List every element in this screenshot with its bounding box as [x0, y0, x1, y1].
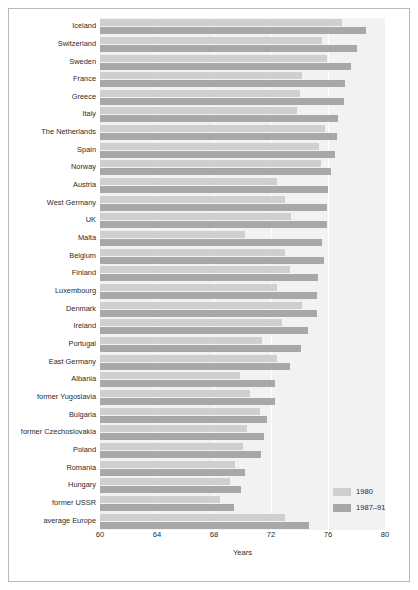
bar-row: Italy	[100, 107, 385, 125]
bar-1987-91	[100, 380, 275, 387]
bar-1980	[100, 37, 322, 44]
category-label: Bulgaria	[69, 407, 96, 423]
plot-area: IcelandSwitzerlandSwedenFranceGreeceItal…	[100, 18, 385, 530]
category-label: Belgium	[69, 248, 96, 264]
bar-row: Spain	[100, 143, 385, 161]
bar-rows: IcelandSwitzerlandSwedenFranceGreeceItal…	[100, 18, 385, 530]
category-label: Austria	[73, 177, 96, 193]
legend-label-1980: 1980	[356, 487, 373, 496]
bar-1980	[100, 372, 240, 379]
category-label: Finland	[72, 265, 96, 281]
bar-1980	[100, 55, 327, 62]
bar-1987-91	[100, 469, 245, 476]
x-tick-72: 72	[267, 530, 275, 539]
category-label: former Czechoslovakia	[21, 424, 96, 440]
bar-1980	[100, 143, 319, 150]
bar-row: Albania	[100, 372, 385, 390]
bar-1980	[100, 355, 277, 362]
bar-1987-91	[100, 345, 301, 352]
bar-row: Ireland	[100, 319, 385, 337]
category-label: Portugal	[68, 336, 96, 352]
legend-label-1987-91: 1987–91	[356, 503, 386, 512]
bar-1980	[100, 461, 235, 468]
bar-1987-91	[100, 363, 290, 370]
bar-row: Austria	[100, 178, 385, 196]
category-label: Switzerland	[58, 36, 96, 52]
bar-1980	[100, 231, 245, 238]
bar-row: Finland	[100, 266, 385, 284]
bar-1987-91	[100, 204, 327, 211]
category-label: France	[73, 71, 96, 87]
bar-row: Malta	[100, 231, 385, 249]
bar-1987-91	[100, 168, 331, 175]
bar-1987-91	[100, 239, 322, 246]
bar-row: Denmark	[100, 302, 385, 320]
bar-1980	[100, 196, 285, 203]
bar-1987-91	[100, 486, 241, 493]
bar-1987-91	[100, 186, 328, 193]
category-label: Romania	[66, 460, 96, 476]
category-label: Poland	[73, 442, 96, 458]
bar-row: Greece	[100, 90, 385, 108]
legend-swatch-1987-91	[333, 504, 351, 512]
legend-swatch-1980	[333, 488, 351, 496]
bar-row: Romania	[100, 461, 385, 479]
bar-row: The Netherlands	[100, 125, 385, 143]
bar-row: UK	[100, 213, 385, 231]
bar-1980	[100, 390, 250, 397]
bar-1987-91	[100, 151, 335, 158]
x-axis-label: Years	[100, 548, 385, 557]
bar-row: Switzerland	[100, 37, 385, 55]
bar-1987-91	[100, 310, 317, 317]
bar-1980	[100, 213, 291, 220]
category-label: Luxembourg	[55, 283, 96, 299]
figure: IcelandSwitzerlandSwedenFranceGreeceItal…	[0, 0, 418, 590]
bar-1987-91	[100, 27, 366, 34]
category-label: Hungary	[68, 477, 96, 493]
bar-1987-91	[100, 98, 344, 105]
bar-1980	[100, 178, 277, 185]
bar-1980	[100, 408, 260, 415]
bar-1987-91	[100, 327, 308, 334]
bar-row: West Germany	[100, 196, 385, 214]
category-label: average Europe	[43, 513, 96, 529]
bar-1987-91	[100, 504, 234, 511]
x-axis-ticks: 606468727680	[0, 530, 418, 546]
bar-row: Iceland	[100, 19, 385, 37]
bar-row: East Germany	[100, 355, 385, 373]
bar-1980	[100, 249, 285, 256]
x-tick-80: 80	[381, 530, 389, 539]
bar-1987-91	[100, 451, 261, 458]
category-label: Albania	[71, 371, 96, 387]
bar-1980	[100, 107, 297, 114]
category-label: former Yugoslavia	[37, 389, 96, 405]
bar-row: Poland	[100, 443, 385, 461]
category-label: The Netherlands	[41, 124, 96, 140]
bar-1980	[100, 319, 282, 326]
bar-1987-91	[100, 398, 275, 405]
bar-1987-91	[100, 80, 345, 87]
bar-1987-91	[100, 416, 267, 423]
category-label: Iceland	[72, 18, 96, 34]
bar-row: former Czechoslovakia	[100, 425, 385, 443]
bar-1987-91	[100, 433, 264, 440]
bar-row: Belgium	[100, 249, 385, 267]
bar-row: Portugal	[100, 337, 385, 355]
bar-1980	[100, 160, 321, 167]
bar-1987-91	[100, 221, 327, 228]
bar-1980	[100, 302, 302, 309]
x-tick-60: 60	[96, 530, 104, 539]
bar-1980	[100, 514, 285, 521]
category-label: former USSR	[52, 495, 96, 511]
legend: 1980 1987–91	[333, 487, 408, 519]
category-label: West Germany	[47, 195, 96, 211]
bar-1980	[100, 19, 342, 26]
bar-row: Sweden	[100, 55, 385, 73]
bar-1980	[100, 443, 243, 450]
bar-row: former Yugoslavia	[100, 390, 385, 408]
bar-1980	[100, 425, 247, 432]
x-tick-76: 76	[324, 530, 332, 539]
bar-row: Norway	[100, 160, 385, 178]
gridline-80	[385, 18, 386, 530]
legend-item-1987-91: 1987–91	[333, 503, 408, 516]
